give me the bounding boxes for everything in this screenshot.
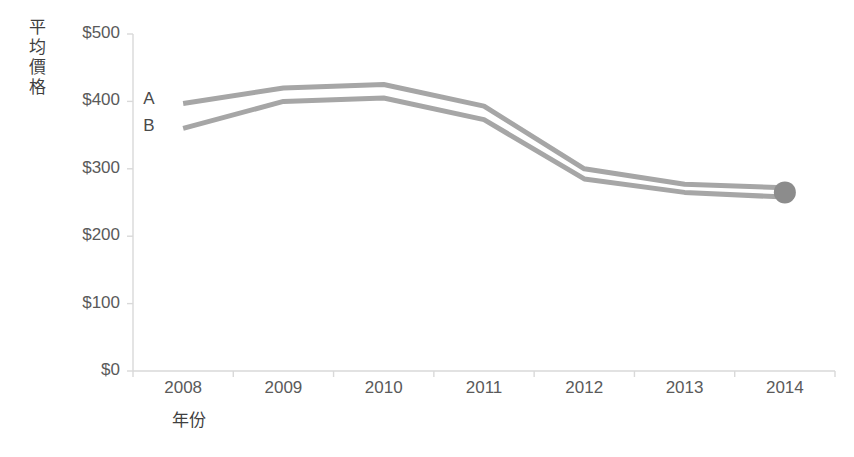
line-chart: 平 均 價 格 年份 $0$100$200$300$400$500 200820… — [0, 0, 854, 457]
series-line-a — [183, 85, 785, 188]
data-point-marker — [774, 181, 796, 203]
plot-area — [0, 0, 854, 457]
